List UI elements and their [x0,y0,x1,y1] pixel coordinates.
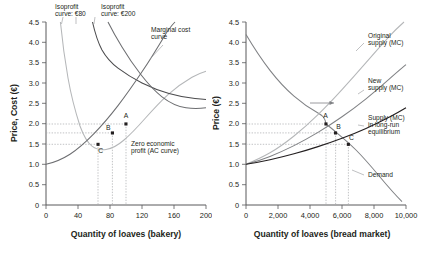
bakery-ytick-7: 3.5 [29,58,39,67]
bakery-ytick-2: 1.0 [29,160,39,169]
bakery-y-axis-title: Price, Cost (€) [9,84,19,142]
bakery-ytick-8: 4.0 [29,38,39,47]
leader-isoprofit-200 [94,17,95,24]
annot-demand: Demand [368,171,393,178]
market-ytick-0: 0 [235,201,239,210]
market-marker-label-b: B [336,123,341,130]
marker-label-c: C [98,147,103,154]
market-x-axis-title: Quantity of loaves (bread market) [254,229,391,239]
market-ytick-7: 3.5 [229,58,239,67]
isoprofit-80-curve [60,22,206,150]
marker-point-a [124,122,127,125]
market-guide-point-a [246,124,326,205]
market-xtick-4: 8,000 [365,211,384,220]
market-xtick-3: 6,000 [333,211,352,220]
market-markers: A B C [323,112,354,146]
leader-marginal-cost [150,45,163,59]
bakery-xtick-4: 160 [168,211,180,220]
bakery-xtick-3: 120 [136,211,148,220]
market-ytick-2: 1.0 [229,160,239,169]
bakery-x-axis-title: Quantity of loaves (bakery) [71,229,181,239]
market-ytick-5: 2.5 [229,99,239,108]
market-marker-point-a [324,122,327,125]
market-ytick-6: 3.0 [229,79,239,88]
market-guide-point-b [246,133,336,205]
guide-point-b [46,133,112,205]
market-ytick-8: 4.0 [229,38,239,47]
leader-original-supply [356,43,364,51]
bakery-ytick-0: 0 [35,201,39,210]
annot-mc-line2: curve [151,33,167,40]
supply-shift-arrow [310,101,334,105]
leader-new-supply [358,90,364,94]
market-xtick-2: 4,000 [301,211,320,220]
bakery-panel: 0 0.5 1.0 1.5 2.0 2.5 3.0 3.5 4.0 4.5 0 … [0,0,212,257]
bread-market-panel: 0 0.5 1.0 1.5 2.0 2.5 3.0 3.5 4.0 4.5 0 … [212,0,424,257]
guide-point-a [46,124,126,205]
marker-label-b: B [106,124,111,131]
market-leader-lines [352,43,364,175]
bakery-ytick-3: 1.5 [29,140,39,149]
bread-market-chart-svg: 0 0.5 1.0 1.5 2.0 2.5 3.0 3.5 4.0 4.5 0 … [212,0,424,257]
market-marker-label-a: A [323,112,328,119]
market-xtick-1: 2,000 [269,211,288,220]
market-marker-point-b [334,131,337,134]
annot-ac-line1: Zero economic [131,140,175,147]
market-ytick-4: 2.0 [229,119,239,128]
bakery-xtick-0: 0 [44,211,48,220]
bakery-ytick-9: 4.5 [29,18,39,27]
market-y-axis-title: Price (€) [212,96,221,130]
bakery-guide-lines [46,124,126,205]
bakery-leader-lines [62,17,164,59]
annot-ac-line2: profit (AC curve) [131,147,179,155]
market-xtick-0: 0 [244,211,248,220]
bakery-xtick-2: 80 [106,211,114,220]
bakery-xtick-5: 200 [200,211,212,220]
market-xtick-5: 10,000 [395,211,418,220]
bakery-chart-svg: 0 0.5 1.0 1.5 2.0 2.5 3.0 3.5 4.0 4.5 0 … [0,0,212,257]
annot-new-line2: supply (MC) [368,84,404,92]
annot-isoprofit200-line2: curve: €200 [101,10,136,17]
marker-label-a: A [124,112,129,119]
market-ytick-9: 4.5 [229,18,239,27]
bakery-annotations: Isoprofit curve: €80 Isoprofit curve: €2… [55,3,190,156]
economics-figure: 0 0.5 1.0 1.5 2.0 2.5 3.0 3.5 4.0 4.5 0 … [0,0,424,257]
marker-point-c [97,143,100,146]
market-marker-point-c [347,143,350,146]
market-marker-label-c: C [349,134,354,141]
market-guide-lines [246,124,348,205]
leader-isoprofit-80 [62,17,64,24]
annot-longrun-line3: equilibrium [368,128,400,136]
leader-longrun-supply [358,125,364,126]
leader-demand [352,170,364,175]
bakery-xtick-1: 40 [74,211,82,220]
market-ytick-3: 1.5 [229,140,239,149]
bakery-ytick-5: 2.5 [29,99,39,108]
bakery-ytick-4: 2.0 [29,119,39,128]
annot-new-line1: New [368,77,381,84]
marker-point-b [111,131,114,134]
bakery-ytick-1: 0.5 [29,180,39,189]
annot-original-line2: supply (MC) [368,39,404,47]
market-ytick-1: 0.5 [229,180,239,189]
annot-isoprofit80-line2: curve: €80 [55,10,86,17]
bakery-ytick-6: 3.0 [29,79,39,88]
